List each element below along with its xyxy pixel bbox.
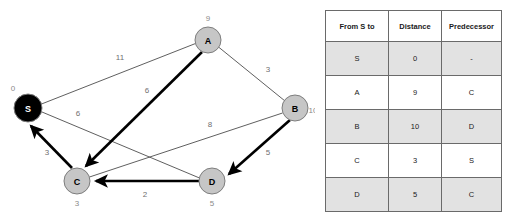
node-b-label: B [292, 104, 299, 114]
node-s[interactable]: S 0 [11, 84, 42, 123]
cell-distance: 5 [389, 178, 442, 212]
cell-from: S [326, 42, 389, 76]
node-s-distance: 0 [11, 84, 16, 93]
table-body: S 0 - A 9 C B 10 D C 3 S D 5 C [326, 42, 502, 212]
cell-predecessor: S [442, 144, 502, 178]
cell-distance: 9 [389, 76, 442, 110]
dijkstra-figure: 11 3 6 8 6 3 5 2 S 0 A 9 [0, 0, 515, 224]
node-d-distance: 5 [210, 199, 215, 208]
cell-predecessor: C [442, 76, 502, 110]
table-row: B 10 D [326, 110, 502, 144]
cell-distance: 10 [389, 110, 442, 144]
edge-weight-a-c: 6 [145, 86, 150, 95]
node-a-label: A [205, 36, 212, 46]
cell-predecessor: C [442, 178, 502, 212]
table-row: S 0 - [326, 42, 502, 76]
node-c-distance: 3 [75, 199, 80, 208]
node-b[interactable]: B 10 [282, 95, 315, 121]
node-a-distance: 9 [206, 14, 211, 23]
shortest-path-table: From S to Distance Predecessor S 0 - A 9… [325, 10, 502, 212]
cell-from: C [326, 144, 389, 178]
node-c[interactable]: C 3 [64, 168, 90, 208]
node-s-label: S [25, 104, 31, 114]
edge-group [31, 44, 290, 182]
edge-weight-b-d: 5 [266, 148, 271, 157]
cell-predecessor: D [442, 110, 502, 144]
edge-c-s [31, 126, 72, 168]
column-header-distance: Distance [389, 11, 442, 42]
edge-s-d [42, 112, 200, 178]
node-d[interactable]: D 5 [199, 168, 225, 208]
table-row: C 3 S [326, 144, 502, 178]
edge-weight-s-a: 11 [116, 53, 125, 62]
table-header: From S to Distance Predecessor [326, 11, 502, 42]
node-b-distance: 10 [309, 106, 315, 115]
cell-from: D [326, 178, 389, 212]
table-header-row: From S to Distance Predecessor [326, 11, 502, 42]
cell-distance: 0 [389, 42, 442, 76]
column-header-from-s-to: From S to [326, 11, 389, 42]
edge-weight-b-c: 8 [208, 120, 213, 129]
node-d-label: D [209, 177, 216, 187]
edge-weight-d-c: 2 [143, 190, 148, 199]
table-row: D 5 C [326, 178, 502, 212]
node-a[interactable]: A 9 [195, 14, 221, 54]
cell-predecessor: - [442, 42, 502, 76]
edge-weight-c-s: 3 [45, 148, 50, 157]
edge-b-c [90, 113, 283, 177]
node-c-label: C [74, 177, 81, 187]
node-group: S 0 A 9 B 10 C 3 [11, 14, 315, 208]
column-header-predecessor: Predecessor [442, 11, 502, 42]
edge-weight-s-d: 6 [76, 109, 81, 118]
cell-from: A [326, 76, 389, 110]
graph-diagram: 11 3 6 8 6 3 5 2 S 0 A 9 [0, 0, 315, 224]
edge-a-c [86, 52, 202, 166]
edge-a-b [219, 47, 286, 101]
cell-distance: 3 [389, 144, 442, 178]
table-row: A 9 C [326, 76, 502, 110]
cell-from: B [326, 110, 389, 144]
edge-weight-a-b: 3 [266, 65, 271, 74]
